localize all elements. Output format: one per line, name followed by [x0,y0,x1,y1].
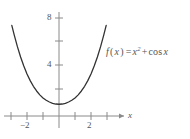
y-tick-label-4: 4 [47,59,52,69]
x-tick-label-negative-2: −2 [20,120,30,130]
formula-close-paren: ) [119,46,125,57]
formula-cos: cos [148,46,162,57]
x-axis-label: x [128,110,132,120]
y-tick-label-8: 8 [47,12,52,22]
plot-canvas [0,0,190,139]
x-tick-label-2: 2 [87,120,92,130]
formula-equals: = [125,46,133,57]
x-axis-arrow-icon [119,114,124,119]
function-plot-figure: 8 4 −2 2 x f(x)=x2+cos x [0,0,190,139]
function-annotation: f(x)=x2+cos x [106,45,168,57]
formula-cos-arg: x [163,46,168,57]
